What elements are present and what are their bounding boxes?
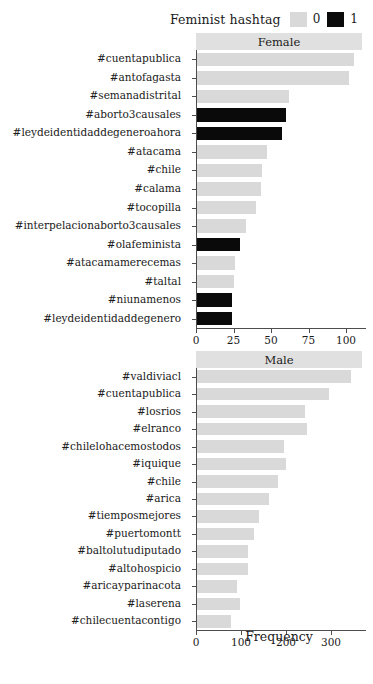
bar-arica [196, 493, 269, 506]
panel-title-female: Female [258, 35, 300, 49]
bar-row [196, 201, 362, 215]
bar-aricayparinacota [196, 580, 237, 593]
panel-male: Male #valdiviacl#cuentapublica#losrios#e… [0, 351, 373, 649]
bar-row [196, 108, 362, 122]
panel-strip-male: Male [196, 351, 362, 368]
y-tick-label: #chile [147, 476, 181, 487]
bar-losrios [196, 405, 305, 418]
bars-female [196, 50, 362, 328]
y-tick-label: #aricayparinacota [82, 580, 181, 591]
y-tick-label: #atacama [127, 146, 181, 157]
y-tick-label: #antofagasta [110, 72, 181, 83]
x-tick-label: 50 [264, 334, 277, 346]
bar-row [196, 293, 362, 307]
bar-row [196, 182, 362, 196]
bar-chilelohacemostodos [196, 440, 284, 453]
x-axis-line [196, 630, 366, 631]
legend: Feminist hashtag 0 1 [0, 9, 373, 29]
bar-valdiviacl [196, 370, 351, 383]
bar-altohospicio [196, 563, 248, 576]
y-tick-label: #baltolutudiputado [77, 545, 181, 556]
legend-key-0: 0 [290, 12, 321, 27]
bar-aborto3causales [196, 108, 286, 122]
x-tick-label: 100 [336, 334, 356, 346]
bar-row [196, 71, 362, 85]
y-tick-label: #interpelacionaborto3causales [15, 220, 181, 231]
bar-atacamamerecemas [196, 256, 235, 270]
bar-row [196, 510, 362, 523]
x-axis-title: Frequency [196, 629, 362, 644]
y-tick-label: #semanadistrital [89, 90, 181, 101]
legend-label-0: 0 [313, 12, 321, 26]
y-tick-label: #tocopilla [126, 202, 181, 213]
bar-row [196, 312, 362, 326]
bar-row [196, 238, 362, 252]
bar-iquique [196, 458, 286, 471]
bar-laserena [196, 598, 240, 611]
bar-tiemposmejores [196, 510, 259, 523]
legend-swatch-icon-0 [290, 12, 307, 27]
bar-row [196, 580, 362, 593]
bar-row [196, 405, 362, 418]
bar-elranco [196, 423, 307, 436]
bar-row [196, 275, 362, 289]
y-tick-label: #laserena [127, 598, 181, 609]
legend-title: Feminist hashtag [170, 12, 281, 27]
bar-taltal [196, 275, 234, 289]
legend-key-1: 1 [327, 12, 358, 27]
bar-row [196, 458, 362, 471]
x-tick-mark [234, 329, 235, 333]
y-axis-line [196, 368, 197, 630]
legend-label-1: 1 [350, 12, 358, 26]
y-tick-label: #elranco [132, 423, 181, 434]
y-tick-label: #leydeidentidaddegenero [43, 313, 181, 324]
legend-swatch-icon-1 [327, 12, 344, 27]
panel-female: Female #cuentapublica#antofagasta#semana… [0, 33, 373, 345]
y-tick-label: #losrios [137, 406, 181, 417]
y-tick-label: #chile [147, 164, 181, 175]
bar-semanadistrital [196, 90, 289, 104]
y-tick-label: #arica [145, 493, 181, 504]
bar-calama [196, 182, 261, 196]
bar-row [196, 127, 362, 141]
y-tick-label: #atacamamerecemas [66, 257, 181, 268]
bar-row [196, 563, 362, 576]
bar-interpelacionaborto3causales [196, 219, 246, 233]
y-tick-label: #iquique [132, 458, 181, 469]
bar-olafeminista [196, 238, 240, 252]
bar-cuentapublica [196, 53, 354, 67]
bar-row [196, 493, 362, 506]
cut-off-top-text [30, 0, 280, 5]
y-tick-label: #puertomontt [105, 528, 181, 539]
x-tick-label: 75 [302, 334, 315, 346]
y-tick-label: #altohospicio [108, 563, 181, 574]
bar-row [196, 164, 362, 178]
x-tick-mark [271, 329, 272, 333]
x-axis-line [196, 328, 366, 329]
bar-row [196, 528, 362, 541]
y-tick-label: #aborto3causales [85, 109, 181, 120]
y-tick-label: #leydeidentidaddegeneroahora [13, 127, 181, 138]
x-tick-mark [346, 329, 347, 333]
x-tick-mark [196, 329, 197, 333]
bar-row [196, 475, 362, 488]
bar-chile [196, 475, 278, 488]
y-axis-line [196, 50, 197, 328]
bar-row [196, 440, 362, 453]
bar-row [196, 145, 362, 159]
bar-baltolutudiputado [196, 545, 248, 558]
bar-atacama [196, 145, 267, 159]
y-tick-label: #chilelohacemostodos [61, 441, 181, 452]
panel-strip-female: Female [196, 33, 362, 50]
y-tick-label: #tiemposmejores [88, 510, 181, 521]
bar-puertomontt [196, 528, 254, 541]
y-tick-label: #cuentapublica [97, 388, 181, 399]
y-tick-label: #olafeminista [107, 239, 181, 250]
panel-title-male: Male [264, 353, 293, 367]
y-tick-label: #taltal [145, 276, 181, 287]
x-tick-label: 0 [193, 334, 200, 346]
bar-row [196, 388, 362, 401]
plot-area-female [196, 50, 362, 328]
plot-area-male [196, 368, 362, 630]
bar-row [196, 90, 362, 104]
